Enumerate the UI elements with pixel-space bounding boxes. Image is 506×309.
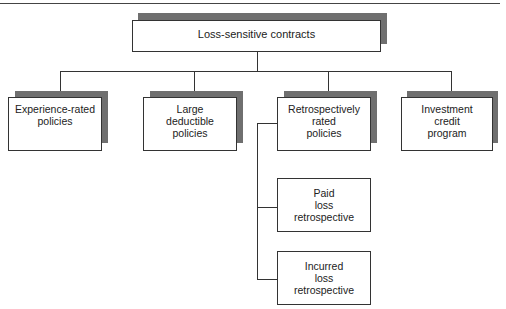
node-experience-rated: Experience-rated policies [8,97,102,151]
node-retrospectively-rated: Retrospectively rated policies [277,97,371,151]
node-paid-loss-retro: Paid loss retrospective [277,178,371,232]
node-large-deductible: Large deductible policies [143,97,237,151]
root-label: Loss-sensitive contracts [198,28,315,40]
node-label: Experience-rated policies [15,103,95,127]
node-incurred-loss-retro: Incurred loss retrospective [277,251,371,305]
top-rule [0,3,500,4]
incurred-connector [257,279,277,280]
node-label: Paid loss retrospective [294,187,354,223]
node-label: Large deductible policies [166,103,214,139]
node-label: Incurred loss retrospective [294,260,354,296]
node-investment-credit: Investment credit program [401,97,493,151]
connector-4 [451,71,452,91]
node-label: Investment credit program [421,103,472,139]
retro-stub [257,123,277,124]
branch-bar [60,71,452,72]
node-label: Retrospectively rated policies [288,103,360,139]
connector-3 [328,71,329,91]
root-connector [257,52,258,71]
retro-spine [257,123,258,280]
root-node: Loss-sensitive contracts [132,20,381,52]
paid-connector [257,207,277,208]
connector-2 [194,71,195,91]
connector-1 [60,71,61,91]
